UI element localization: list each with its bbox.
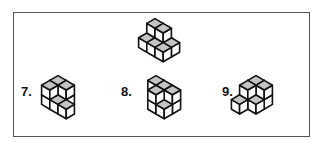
- option-9-cube-figure: [0, 0, 323, 143]
